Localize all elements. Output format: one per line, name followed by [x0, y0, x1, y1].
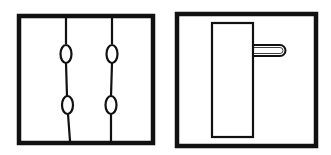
- left-line-2: [111, 16, 112, 141]
- inner-rectangle: [212, 23, 253, 137]
- knot-icon: [106, 96, 117, 114]
- diagram-canvas: [0, 0, 331, 155]
- right-frame: [177, 14, 316, 146]
- loop-handle-icon: [253, 45, 286, 56]
- right-panel: [177, 14, 316, 146]
- knot-icon: [62, 96, 73, 114]
- loop-handle-inner: [253, 48, 283, 54]
- knot-icon: [61, 45, 72, 63]
- knot-icon: [107, 45, 118, 63]
- left-panel: [19, 16, 153, 143]
- left-line-1: [66, 16, 70, 141]
- left-frame: [19, 16, 153, 143]
